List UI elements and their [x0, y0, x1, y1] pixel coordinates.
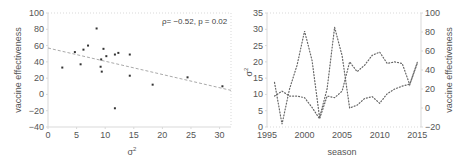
right-y-tick-label: −20 [425, 122, 440, 132]
data-point [87, 45, 89, 47]
figure: −40−20020406080100051015202530 ρ= −0.52,… [0, 0, 466, 162]
left-y-tick-label: 10 [253, 89, 263, 99]
regression-trendline [48, 48, 231, 90]
x-tick-label: 2010 [370, 130, 390, 140]
sigma-squared-line [275, 52, 418, 119]
right-y-tick-label: 0 [425, 103, 430, 113]
left-y-tick-label: 5 [258, 106, 263, 116]
x-tick-label: 2000 [295, 130, 315, 140]
data-point [100, 58, 102, 60]
y-tick-label: 80 [34, 24, 44, 34]
timeseries-panel: 05101520253035−2002040608010019952000200… [243, 8, 454, 157]
left-y-tick-label: 30 [253, 24, 263, 34]
scatter-axes [46, 13, 231, 129]
y-tick-label: 60 [34, 41, 44, 51]
data-point [74, 51, 76, 53]
x-tick-label: 2015 [407, 130, 427, 140]
scatter-x-axis-title: σ2 [128, 146, 138, 157]
right-y-tick-label: 40 [425, 65, 435, 75]
scatter-panel: −40−20020406080100051015202530 ρ= −0.52,… [13, 8, 231, 157]
x-tick-label: 25 [186, 130, 196, 140]
x-tick-label: 2005 [332, 130, 352, 140]
left-y-tick-label: 15 [253, 73, 263, 83]
data-point [100, 66, 102, 68]
data-point [102, 48, 104, 50]
right-y-tick-label: 80 [425, 27, 435, 37]
data-point [105, 55, 107, 57]
x-tick-label: 30 [215, 130, 225, 140]
data-point [82, 49, 84, 51]
y-tick-label: −40 [29, 122, 44, 132]
superscript-2: 2 [133, 146, 137, 152]
data-point [129, 75, 131, 77]
data-point [114, 54, 116, 56]
y-tick-label: −20 [29, 106, 44, 116]
right-y-tick-label: 60 [425, 46, 435, 56]
left-y-tick-label: 35 [253, 8, 263, 18]
left-y-tick-label: 20 [253, 57, 263, 67]
x-tick-label: 15 [129, 130, 139, 140]
scatter-points [61, 27, 223, 109]
correlation-annotation: ρ= −0.52, p = 0.02 [162, 17, 228, 26]
data-point [114, 107, 116, 109]
timeseries-axes [265, 13, 423, 127]
x-tick-label: 0 [45, 130, 50, 140]
timeseries-lines [275, 27, 418, 124]
x-tick-label: 10 [100, 130, 110, 140]
data-point [152, 84, 154, 86]
y-tick-label: 40 [34, 57, 44, 67]
y-tick-label: 0 [39, 89, 44, 99]
chart-canvas: −40−20020406080100051015202530 ρ= −0.52,… [0, 0, 466, 162]
right-y-tick-label: 20 [425, 84, 435, 94]
data-point [187, 76, 189, 78]
timeseries-right-y-axis-title: vaccine effectiveness [444, 27, 454, 113]
timeseries-x-axis-title: season [327, 147, 356, 157]
x-tick-label: 5 [74, 130, 79, 140]
right-y-tick-label: 100 [425, 8, 440, 18]
data-point [80, 63, 82, 65]
data-point [61, 67, 63, 69]
left-y-tick-label: 25 [253, 41, 263, 51]
data-point [101, 71, 103, 73]
data-point [117, 52, 119, 54]
scatter-tick-labels: −40−20020406080100051015202530 [29, 8, 225, 140]
scatter-y-axis-title: vaccine effectiveness [13, 27, 23, 113]
y-tick-label: 20 [34, 73, 44, 83]
data-point [96, 27, 98, 29]
data-point [129, 54, 131, 56]
y-tick-label: 100 [29, 8, 44, 18]
x-tick-label: 1995 [257, 130, 277, 140]
x-tick-label: 20 [157, 130, 167, 140]
data-point [221, 85, 223, 87]
timeseries-left-y-axis-title: σ2 [243, 67, 254, 77]
